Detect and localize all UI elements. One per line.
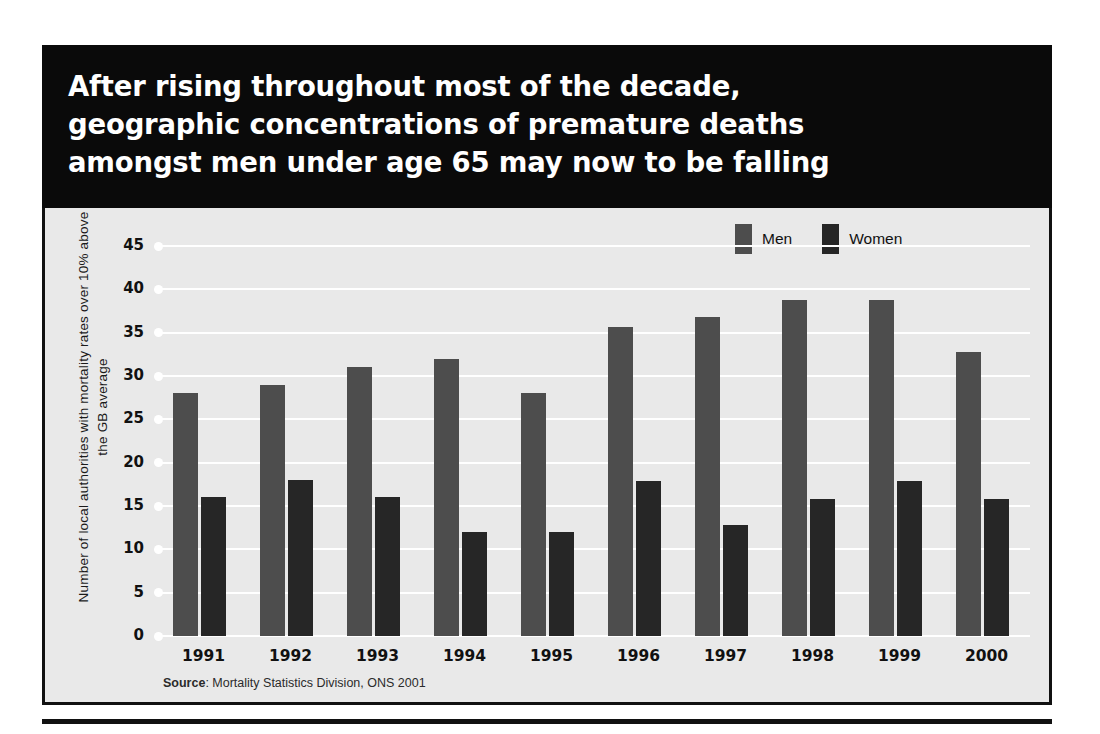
bar-men-1992 [260, 385, 285, 636]
bar-group: 1992 [247, 246, 334, 636]
bar-men-1994 [434, 359, 459, 636]
y-axis-tick-label: 40 [123, 279, 144, 297]
bar-men-1999 [869, 300, 894, 636]
bar-women-1996 [636, 481, 661, 636]
chart-area: Number of local authorities with mortali… [45, 208, 1049, 702]
bar-group: 1995 [508, 246, 595, 636]
bar-women-1992 [288, 480, 313, 636]
bar-women-1999 [897, 481, 922, 636]
bar-women-1998 [810, 499, 835, 636]
bar-group: 1997 [682, 246, 769, 636]
bar-men-2000 [956, 352, 981, 636]
bar-women-1991 [201, 497, 226, 636]
y-axis-title: Number of local authorities with mortali… [74, 207, 112, 607]
plot-area: 0510152025303540451991199219931994199519… [160, 246, 1030, 636]
x-axis-tick-label: 1999 [856, 647, 943, 665]
headline-banner: After rising throughout most of the deca… [42, 45, 1052, 208]
chart-panel: Number of local authorities with mortali… [42, 208, 1052, 705]
bar-group: 1991 [160, 246, 247, 636]
source-text: : Mortality Statistics Division, ONS 200… [205, 676, 425, 690]
bar-men-1997 [695, 317, 720, 636]
y-axis-tick-label: 25 [123, 409, 144, 427]
y-axis-tick-label: 30 [123, 366, 144, 384]
bar-group: 1999 [856, 246, 943, 636]
x-axis-tick-label: 2000 [943, 647, 1030, 665]
bar-group: 1993 [334, 246, 421, 636]
y-axis-tick-label: 0 [134, 626, 144, 644]
y-axis-tick-label: 45 [123, 236, 144, 254]
y-axis-tick-label: 15 [123, 496, 144, 514]
x-axis-tick-label: 1998 [769, 647, 856, 665]
bar-men-1991 [173, 393, 198, 636]
y-axis-tick-label: 20 [123, 453, 144, 471]
x-axis-tick-label: 1992 [247, 647, 334, 665]
bar-men-1995 [521, 393, 546, 636]
bar-men-1996 [608, 327, 633, 636]
bar-group: 1996 [595, 246, 682, 636]
y-axis-tick-label: 35 [123, 323, 144, 341]
bottom-divider [42, 719, 1052, 724]
source-note: Source: Mortality Statistics Division, O… [163, 676, 426, 690]
source-label: Source [163, 676, 205, 690]
bar-group: 2000 [943, 246, 1030, 636]
x-axis-tick-label: 1996 [595, 647, 682, 665]
x-axis-tick-label: 1994 [421, 647, 508, 665]
y-axis-tick-label: 5 [134, 583, 144, 601]
page-title: After rising throughout most of the deca… [68, 67, 1026, 181]
bar-women-1993 [375, 497, 400, 636]
bar-men-1993 [347, 367, 372, 636]
x-axis-tick-label: 1995 [508, 647, 595, 665]
bar-group: 1994 [421, 246, 508, 636]
y-axis-tick-label: 10 [123, 539, 144, 557]
bar-women-1995 [549, 532, 574, 636]
poster-page: After rising throughout most of the deca… [0, 0, 1100, 734]
bar-women-1994 [462, 532, 487, 636]
bar-women-2000 [984, 499, 1009, 636]
x-axis-tick-label: 1997 [682, 647, 769, 665]
x-axis-tick-label: 1991 [160, 647, 247, 665]
x-axis-tick-label: 1993 [334, 647, 421, 665]
bar-men-1998 [782, 300, 807, 636]
bar-women-1997 [723, 525, 748, 636]
bar-group: 1998 [769, 246, 856, 636]
